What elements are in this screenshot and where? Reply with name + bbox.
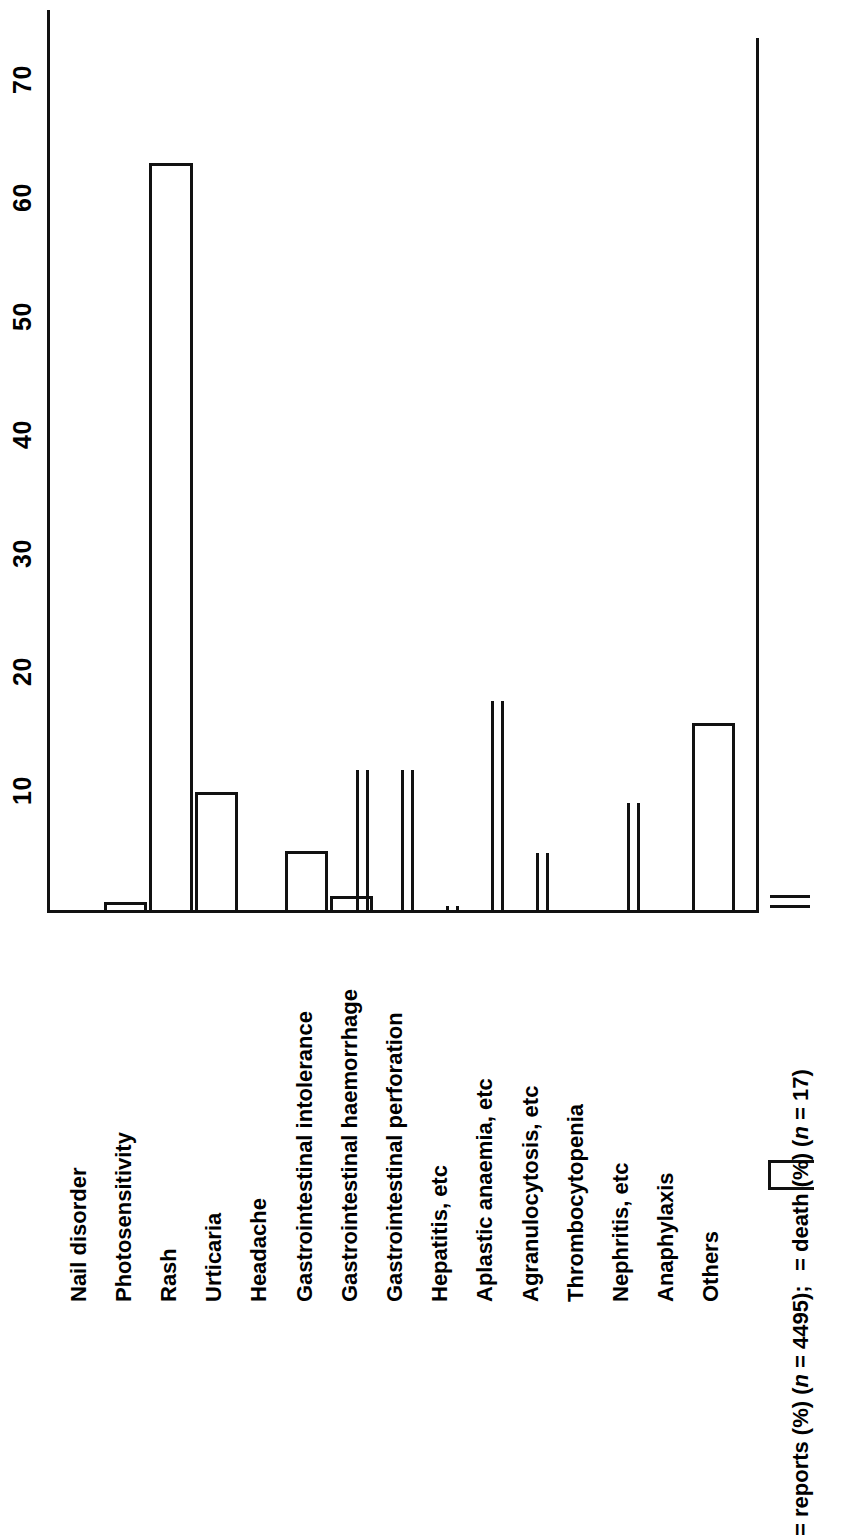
chart-legend: = reports (%) (n = 4495); = death (%) (n… bbox=[764, 560, 848, 1300]
plot-area bbox=[47, 10, 759, 912]
category-label-11: Thrombocytopenia bbox=[565, 1104, 587, 1302]
value-tick-30: 30 bbox=[8, 531, 37, 575]
category-label-9: Aplastic anaemia, etc bbox=[474, 1078, 496, 1302]
legend-italic-n-reports: n bbox=[788, 1374, 813, 1387]
bar-death-10 bbox=[536, 853, 549, 910]
category-label-3: Urticaria bbox=[203, 1213, 225, 1302]
bar-reports-14 bbox=[692, 723, 735, 910]
category-label-4: Headache bbox=[248, 1198, 270, 1302]
bar-death-8 bbox=[446, 906, 459, 910]
bar-death-7 bbox=[401, 770, 414, 910]
category-label-6: Gastrointestinal haemorrhage bbox=[339, 989, 361, 1302]
bars-container bbox=[47, 10, 759, 912]
legend-italic-n-death: n bbox=[788, 1126, 813, 1139]
category-label-2: Rash bbox=[158, 1248, 180, 1302]
bar-reports-2 bbox=[149, 163, 192, 910]
bar-death-12 bbox=[627, 803, 640, 910]
legend-label-death: = death (%) (n = 17) bbox=[788, 1069, 814, 1271]
bar-death-6 bbox=[356, 770, 369, 910]
value-tick-10: 10 bbox=[8, 768, 37, 812]
category-label-7: Gastrointestinal perforation bbox=[384, 1012, 406, 1302]
category-label-1: Photosensitivity bbox=[113, 1132, 135, 1302]
category-label-0: Nail disorder bbox=[68, 1168, 90, 1302]
category-label-13: Anaphylaxis bbox=[655, 1172, 677, 1302]
value-tick-70: 70 bbox=[8, 57, 37, 101]
bar-death-9 bbox=[491, 701, 504, 910]
bar-reports-3 bbox=[195, 792, 238, 911]
legend-swatch-death bbox=[770, 895, 810, 908]
legend-label-reports: = reports (%) (n = 4495); bbox=[788, 1285, 814, 1536]
category-label-14: Others bbox=[700, 1231, 722, 1302]
category-axis-labels: Nail disorderPhotosensitivityRashUrticar… bbox=[0, 925, 760, 1295]
bar-reports-1 bbox=[104, 902, 147, 910]
value-tick-40: 40 bbox=[8, 413, 37, 457]
value-tick-60: 60 bbox=[8, 176, 37, 220]
bar-reports-5 bbox=[285, 851, 328, 910]
value-tick-50: 50 bbox=[8, 294, 37, 338]
category-label-12: Nephritis, etc bbox=[610, 1163, 632, 1302]
category-label-10: Agranulocytosis, etc bbox=[520, 1086, 542, 1302]
value-tick-20: 20 bbox=[8, 650, 37, 694]
category-label-8: Hepatitis, etc bbox=[429, 1165, 451, 1302]
category-label-5: Gastrointestinal intolerance bbox=[294, 1011, 316, 1302]
